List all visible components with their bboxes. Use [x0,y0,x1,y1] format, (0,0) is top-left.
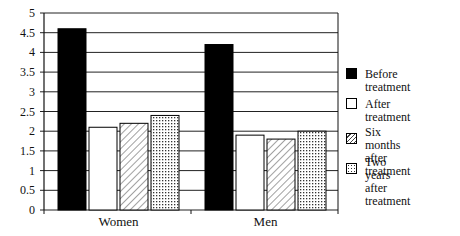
legend-item: After treatment [346,98,410,124]
y-tick-label: 0 [29,203,35,217]
legend-item: Before treatment [346,68,410,94]
bar-men-3 [298,131,326,210]
y-tick-label: 2.5 [20,105,35,119]
legend-item: Two years aftertreatment [346,156,410,208]
legend-swatch-icon [346,133,357,144]
legend-label: Before treatment [365,68,410,94]
y-tick-label: 3 [29,85,35,99]
y-tick-label: 0.5 [20,183,35,197]
y-tick-label: 5 [29,6,35,20]
legend-swatch-icon [346,68,357,79]
legend-swatch-icon [346,98,357,109]
bar-men-0 [205,45,233,210]
bar-women-0 [58,29,86,210]
bar-women-3 [151,115,179,210]
x-category-label: Women [98,214,139,229]
legend-label: Two years aftertreatment [365,156,410,208]
x-category-label: Men [254,214,278,229]
y-tick-label: 2 [29,124,35,138]
y-tick-label: 1 [29,164,35,178]
legend-swatch-icon [346,163,357,174]
bar-women-2 [120,123,148,210]
y-tick-label: 1.5 [20,144,35,158]
bar-men-2 [267,139,295,210]
y-tick-label: 4 [29,45,35,59]
legend-label: After treatment [365,98,410,124]
bars [58,29,326,210]
y-tick-label: 4.5 [20,26,35,40]
bar-men-1 [236,135,264,210]
y-tick-label: 3.5 [20,65,35,79]
bar-women-1 [89,127,117,210]
